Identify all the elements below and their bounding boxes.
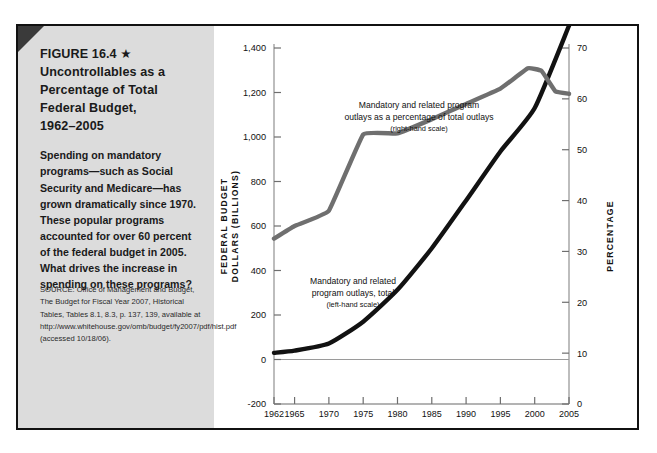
figure-container: FIGURE 16.4 ★ Uncontrollables as a Perce…	[16, 24, 639, 430]
y-axis-right-tick-label: 60	[577, 94, 587, 104]
x-axis-tick-label: 1990	[456, 409, 476, 419]
figure-source-note: SOURCE: Office of Management and Budget,…	[40, 284, 202, 345]
y-axis-left-tick-label: 0	[261, 355, 266, 365]
figure-title: FIGURE 16.4 ★ Uncontrollables as a Perce…	[40, 46, 200, 135]
series-line-percentage	[274, 68, 569, 239]
caption-panel: FIGURE 16.4 ★ Uncontrollables as a Perce…	[18, 26, 214, 428]
y-axis-right-tick-label: 70	[577, 43, 587, 53]
chart-plot-area: -20002004006008001,0001,2001,40001020304…	[214, 26, 637, 428]
y-axis-left-tick-label: 1,000	[243, 132, 266, 142]
figure-number-label: FIGURE 16.4 ★	[40, 46, 200, 64]
figure-title-line-3: Federal Budget,	[40, 100, 200, 118]
y-axis-left-tick-label: 800	[251, 177, 266, 187]
y-axis-left-tick-label: 400	[251, 266, 266, 276]
figure-title-line-4: 1962–2005	[40, 118, 200, 136]
line-chart: -20002004006008001,0001,2001,40001020304…	[214, 26, 637, 428]
black-series-annotation-line-1: Mandatory and related	[310, 276, 396, 286]
black-series-annotation-line-2: program outlays, total	[312, 288, 395, 298]
y-axis-right-tick-label: 20	[577, 298, 587, 308]
y-axis-right-tick-label: 40	[577, 196, 587, 206]
black-series-annotation-line-3: (left-hand scale)	[327, 300, 380, 309]
y-axis-left-tick-label: 1,400	[243, 43, 266, 53]
gray-series-annotation-line-3: (right-hand scale)	[390, 124, 448, 133]
gray-series-annotation-line-1: Mandatory and related program	[359, 100, 479, 110]
x-axis-tick-label: 1985	[422, 409, 442, 419]
gray-series-annotation-line-2: outlays as a percentage of total outlays	[344, 112, 493, 122]
y-axis-right-tick-label: 10	[577, 349, 587, 359]
x-axis-tick-label: 1975	[353, 409, 373, 419]
figure-title-line-1: Uncontrollables as a	[40, 64, 200, 82]
x-axis-tick-label: 2005	[559, 409, 579, 419]
series-line-dollars	[274, 26, 569, 353]
x-axis-tick-label: 1965	[285, 409, 305, 419]
figure-description: Spending on mandatory programs—such as S…	[40, 147, 200, 292]
y-axis-left-tick-label: 1,200	[243, 88, 266, 98]
x-axis-tick-label: 1962	[264, 409, 284, 419]
x-axis-tick-label: 1995	[490, 409, 510, 419]
y-axis-left-tick-label: -200	[248, 399, 266, 409]
y-axis-left-tick-label: 600	[251, 221, 266, 231]
y-axis-right-tick-label: 30	[577, 247, 587, 257]
y-axis-right-tick-label: 0	[577, 399, 582, 409]
y-axis-left-tick-label: 200	[251, 310, 266, 320]
x-axis-tick-label: 1980	[387, 409, 407, 419]
figure-title-line-2: Percentage of Total	[40, 82, 200, 100]
x-axis-tick-label: 1970	[319, 409, 339, 419]
x-axis-tick-label: 2000	[525, 409, 545, 419]
corner-triangle-decoration	[18, 26, 44, 52]
y-axis-right-tick-label: 50	[577, 145, 587, 155]
y-axis-left-title: FEDERAL BUDGETDOLLARS (BILLIONS)	[219, 170, 240, 282]
y-axis-right-title: PERCENTAGE	[605, 200, 615, 272]
